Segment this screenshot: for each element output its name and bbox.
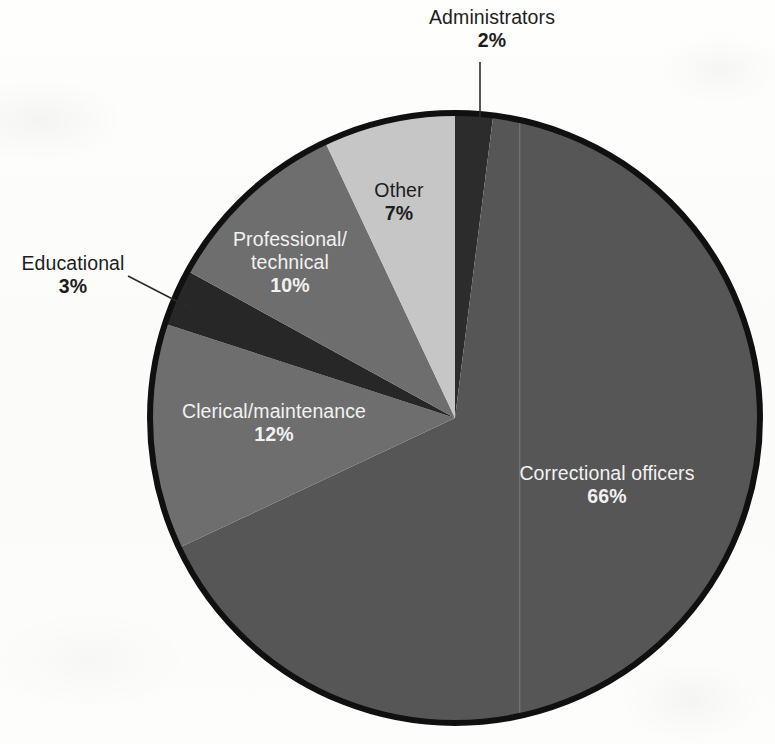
slice-label-correctional-officers-name: Correctional officers (498, 462, 716, 485)
slice-label-other: Other 7% (352, 179, 446, 225)
slice-label-clerical-maintenance-name: Clerical/maintenance (150, 400, 398, 423)
slice-label-correctional-officers: Correctional officers 66% (498, 462, 716, 508)
slice-label-clerical-maintenance: Clerical/maintenance 12% (150, 400, 398, 446)
slice-label-professional-technical-value: 10% (214, 274, 366, 297)
slice-label-administrators-name: Administrators (404, 6, 580, 29)
slice-label-clerical-maintenance-value: 12% (150, 423, 398, 446)
slice-label-professional-technical: Professional/ technical 10% (214, 228, 366, 297)
slice-label-educational-value: 3% (6, 275, 140, 298)
slice-label-administrators: Administrators 2% (404, 6, 580, 52)
slice-label-correctional-officers-value: 66% (498, 485, 716, 508)
scan-seam-artifact (519, 113, 520, 723)
slice-label-other-name: Other (352, 179, 446, 202)
slice-label-other-value: 7% (352, 202, 446, 225)
slice-label-professional-technical-name-line2: technical (214, 251, 366, 274)
pie-chart-svg (0, 0, 775, 744)
slice-label-educational: Educational 3% (6, 252, 140, 298)
slice-label-educational-name: Educational (6, 252, 140, 275)
pie-chart (0, 0, 775, 744)
slice-label-professional-technical-name-line1: Professional/ (214, 228, 366, 251)
slice-label-administrators-value: 2% (404, 29, 580, 52)
